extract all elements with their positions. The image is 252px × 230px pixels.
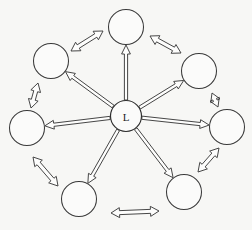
- spoke-to-upper-left: [66, 72, 115, 108]
- rim-lower-right-lower-left: [111, 206, 159, 217]
- hub-layer: L: [111, 101, 142, 132]
- rim-upper-right-right: [210, 93, 220, 107]
- node-upper-right[interactable]: [182, 54, 217, 89]
- diagram-canvas: L: [0, 0, 252, 230]
- spoke-to-left: [45, 116, 110, 129]
- node-lower-right[interactable]: [167, 175, 202, 210]
- spoke-to-upper-right: [139, 80, 184, 109]
- spoke-to-top: [122, 45, 131, 100]
- node-right[interactable]: [210, 110, 245, 145]
- spoke-to-lower-left: [88, 129, 120, 183]
- rim-top-upper-right: [150, 36, 181, 54]
- leader-node-label: L: [123, 111, 130, 123]
- node-lower-left[interactable]: [62, 182, 97, 217]
- node-upper-left[interactable]: [34, 44, 69, 79]
- node-top[interactable]: [109, 10, 144, 45]
- spoke-to-right: [142, 116, 209, 128]
- spoke-to-lower-right: [134, 128, 173, 178]
- rim-lower-left-left: [33, 157, 58, 186]
- rim-upper-left-top: [71, 31, 103, 51]
- rim-right-lower-right: [198, 148, 219, 172]
- rim-left-upper-left: [28, 83, 40, 108]
- network-diagram: L: [0, 0, 252, 230]
- node-left[interactable]: [10, 111, 45, 146]
